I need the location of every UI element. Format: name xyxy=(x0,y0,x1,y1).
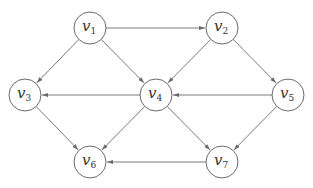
node-label-subscript: 6 xyxy=(90,160,96,170)
edge-v1-to-v3 xyxy=(37,39,79,82)
node-v4: v4 xyxy=(140,79,172,111)
node-label-subscript: 2 xyxy=(222,26,228,36)
node-label-subscript: 3 xyxy=(25,93,31,103)
edge-v5-to-v7 xyxy=(234,106,277,149)
node-v3: v3 xyxy=(9,79,41,111)
directed-graph: v1v2v3v4v5v6v7 xyxy=(0,0,313,188)
node-v2: v2 xyxy=(206,12,238,44)
node-v1: v1 xyxy=(74,12,106,44)
node-label-subscript: 4 xyxy=(156,93,162,103)
edge-v3-to-v6 xyxy=(36,106,78,149)
edge-v2-to-v5 xyxy=(233,39,276,82)
edge-v4-to-v7 xyxy=(167,106,210,149)
node-label-subscript: 1 xyxy=(90,26,96,36)
edge-v4-to-v6 xyxy=(102,106,145,149)
edge-v2-to-v4 xyxy=(168,39,211,82)
node-label-subscript: 5 xyxy=(288,93,294,103)
node-v7: v7 xyxy=(206,146,238,178)
edge-v1-to-v4 xyxy=(101,39,144,82)
node-v5: v5 xyxy=(272,79,304,111)
node-label-subscript: 7 xyxy=(222,160,228,170)
node-v6: v6 xyxy=(74,146,106,178)
